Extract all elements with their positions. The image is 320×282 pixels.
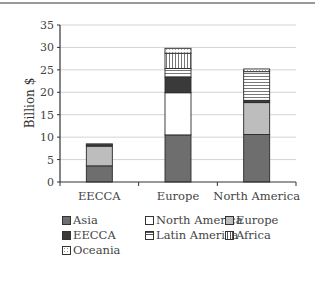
y-axis-label: Billion $ bbox=[23, 78, 37, 129]
legend-swatch-icon bbox=[62, 216, 71, 225]
y-axis: 05101520253035 bbox=[40, 19, 60, 189]
x-axis: EECCAEuropeNorth America bbox=[60, 182, 300, 203]
legend-label: Europe bbox=[236, 213, 278, 227]
legend-label: Oceania bbox=[73, 243, 120, 257]
bar-eecca bbox=[86, 144, 112, 182]
x-tick-label: Europe bbox=[157, 189, 200, 203]
segment-asia bbox=[86, 166, 112, 182]
x-tick-label: North America bbox=[213, 189, 300, 203]
segment-europe bbox=[86, 146, 112, 166]
y-tick-label: 0 bbox=[47, 176, 54, 189]
y-tick-label: 30 bbox=[40, 41, 54, 54]
bar-north-america bbox=[244, 69, 270, 182]
segment-europe bbox=[244, 103, 270, 135]
legend-swatch-icon bbox=[62, 246, 71, 255]
legend-item-europe: Europe bbox=[225, 213, 278, 227]
segment-asia bbox=[244, 134, 270, 182]
legend-item-africa: Africa bbox=[225, 228, 271, 242]
legend-swatch-icon bbox=[145, 216, 154, 225]
segment-africa bbox=[165, 53, 191, 68]
segment-asia bbox=[165, 135, 191, 182]
y-tick-label: 35 bbox=[40, 19, 54, 32]
legend-swatch-icon bbox=[62, 231, 71, 240]
y-tick-label: 20 bbox=[40, 86, 54, 99]
y-tick-label: 10 bbox=[40, 131, 54, 144]
legend-swatch-icon bbox=[225, 231, 234, 240]
x-tick-label: EECCA bbox=[78, 189, 121, 203]
segment-oceania bbox=[244, 69, 270, 72]
bar-europe bbox=[165, 48, 191, 182]
segment-north-america bbox=[165, 93, 191, 135]
legend-label: Africa bbox=[236, 228, 271, 242]
segment-eecca bbox=[165, 77, 191, 92]
legend-item-asia: Asia bbox=[62, 213, 98, 227]
legend-label: EECCA bbox=[73, 228, 116, 242]
legend-label: Asia bbox=[73, 213, 98, 227]
y-tick-label: 5 bbox=[47, 154, 54, 167]
legend-item-oceania: Oceania bbox=[62, 243, 120, 257]
bars bbox=[86, 48, 269, 182]
y-tick-label: 15 bbox=[40, 109, 54, 122]
y-tick-label: 25 bbox=[40, 64, 54, 77]
segment-latin-america bbox=[244, 72, 270, 101]
legend-item-eecca: EECCA bbox=[62, 228, 116, 242]
legend-swatch-icon bbox=[145, 231, 154, 240]
segment-latin-america bbox=[165, 69, 191, 78]
legend-swatch-icon bbox=[225, 216, 234, 225]
segment-oceania bbox=[165, 48, 191, 53]
